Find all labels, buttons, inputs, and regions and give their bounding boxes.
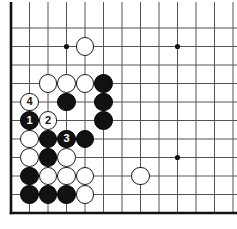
- stone-move-number: 1: [27, 114, 33, 125]
- stone-black[interactable]: [20, 185, 39, 204]
- star-point: [175, 44, 180, 49]
- numbered-stone-black[interactable]: 1: [20, 111, 39, 130]
- stone-black[interactable]: [94, 74, 113, 93]
- stone-white[interactable]: [76, 74, 95, 93]
- star-point: [175, 155, 180, 160]
- stone-move-number: 2: [45, 114, 51, 125]
- stone-white[interactable]: [76, 185, 95, 204]
- stone-black[interactable]: [94, 93, 113, 112]
- stone-white[interactable]: [57, 167, 76, 186]
- stone-white[interactable]: [76, 37, 95, 56]
- go-board-diagram: 4123: [0, 0, 237, 229]
- stone-white[interactable]: [20, 130, 39, 149]
- stone-black[interactable]: [39, 148, 58, 167]
- numbered-stone-white[interactable]: 2: [39, 111, 58, 130]
- numbered-stone-white[interactable]: 4: [20, 93, 39, 112]
- numbered-stone-black[interactable]: 3: [57, 130, 76, 149]
- stone-move-number: 3: [64, 133, 70, 144]
- stone-black[interactable]: [20, 167, 39, 186]
- stone-white[interactable]: [57, 74, 76, 93]
- stone-move-number: 4: [27, 96, 33, 107]
- stone-black[interactable]: [57, 93, 76, 112]
- stone-black[interactable]: [57, 185, 76, 204]
- stone-black[interactable]: [94, 111, 113, 130]
- stone-white[interactable]: [39, 74, 58, 93]
- stone-black[interactable]: [39, 185, 58, 204]
- stone-white[interactable]: [131, 167, 150, 186]
- stone-white[interactable]: [57, 148, 76, 167]
- stone-white[interactable]: [20, 148, 39, 167]
- star-point: [64, 44, 69, 49]
